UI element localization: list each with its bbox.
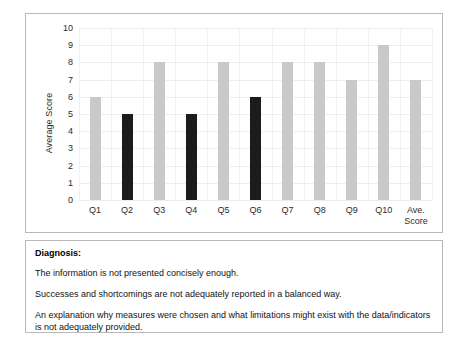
- gridline-vertical: [432, 28, 433, 200]
- gridline-vertical: [207, 28, 208, 200]
- gridline-vertical: [143, 28, 144, 200]
- y-axis-tick-label: 10: [63, 23, 73, 33]
- bar: [378, 45, 389, 200]
- y-axis-tick-label: 2: [68, 161, 73, 171]
- bar: [90, 97, 101, 200]
- gridline-vertical: [175, 28, 176, 200]
- y-axis-tick-label: 1: [68, 178, 73, 188]
- gridline-vertical: [239, 28, 240, 200]
- gridline-vertical: [336, 28, 337, 200]
- bar: [282, 62, 293, 200]
- chart-panel: Average Score 012345678910Q1Q2Q3Q4Q5Q6Q7…: [25, 13, 443, 233]
- y-axis-tick-label: 0: [68, 195, 73, 205]
- x-axis-tick-label: Ave. Score: [396, 205, 436, 227]
- bar: [410, 80, 421, 200]
- gridline-vertical: [111, 28, 112, 200]
- y-axis-tick-label: 9: [68, 40, 73, 50]
- chart-inner: Average Score 012345678910Q1Q2Q3Q4Q5Q6Q7…: [26, 14, 442, 232]
- diagnosis-line: The information is not presented concise…: [35, 267, 433, 279]
- y-axis-title: Average Score: [44, 68, 54, 178]
- gridline-vertical: [368, 28, 369, 200]
- y-axis-tick-label: 8: [68, 57, 73, 67]
- gridline-horizontal: [79, 200, 432, 201]
- plot-area: 012345678910Q1Q2Q3Q4Q5Q6Q7Q8Q9Q10Ave. Sc…: [79, 28, 432, 200]
- gridline-vertical: [304, 28, 305, 200]
- gridline-vertical: [79, 28, 80, 200]
- diagnosis-heading: Diagnosis:: [35, 248, 433, 258]
- bar: [122, 114, 133, 200]
- y-axis-tick-label: 5: [68, 109, 73, 119]
- diagnosis-panel: Diagnosis: The information is not presen…: [25, 240, 443, 333]
- gridline-horizontal: [79, 28, 432, 29]
- diagnosis-line: An explanation why measures were chosen …: [35, 309, 433, 333]
- bar: [314, 62, 325, 200]
- y-axis-tick-label: 6: [68, 92, 73, 102]
- bar: [346, 80, 357, 200]
- gridline-vertical: [272, 28, 273, 200]
- y-axis-tick-label: 7: [68, 75, 73, 85]
- bar: [250, 97, 261, 200]
- bar: [218, 62, 229, 200]
- y-axis-tick-label: 3: [68, 143, 73, 153]
- bar: [154, 62, 165, 200]
- gridline-vertical: [400, 28, 401, 200]
- bar: [186, 114, 197, 200]
- diagnosis-lines: The information is not presented concise…: [35, 267, 433, 333]
- y-axis-tick-label: 4: [68, 126, 73, 136]
- diagnosis-line: Successes and shortcomings are not adequ…: [35, 288, 433, 300]
